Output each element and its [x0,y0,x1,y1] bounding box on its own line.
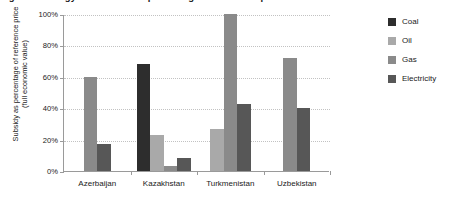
y-axis-title-line-2: (full economic value) [20,0,29,149]
bar [283,58,297,171]
x-axis-separator-tick [131,171,132,175]
bar [237,104,251,172]
x-axis-category-label: Azerbaijan [78,179,116,188]
bar [150,135,164,171]
bar [224,14,238,171]
y-axis-tick-label: 40% [43,105,58,113]
x-axis-separator-tick [330,171,331,175]
y-axis-tick-mark [60,109,64,110]
y-axis-tick-label: 80% [43,43,58,51]
y-axis-tick-mark [60,172,64,173]
bar [84,77,98,171]
figure-title: Figure 3. Energy subsidies as a percenta… [0,0,465,5]
figure-container: Figure 3. Energy subsidies as a percenta… [0,0,465,199]
y-axis-tick-label: 0% [47,168,58,176]
bar [177,158,191,171]
legend-item-coal[interactable]: Coal [388,12,465,31]
y-axis-title-line-1: Subsidy as percentage of reference price [11,0,20,149]
legend-item-label: Gas [402,56,417,64]
y-axis-tick-label: 60% [43,74,58,82]
y-axis-tick-mark [60,15,64,16]
bar [97,144,111,171]
legend-item-label: Oil [402,37,412,45]
y-axis-title: Subsidy as percentage of reference price… [11,0,35,149]
y-axis-tick-mark [60,78,64,79]
legend-swatch-icon [388,75,396,83]
legend-item-label: Coal [402,18,418,26]
legend-item-oil[interactable]: Oil [388,31,465,50]
x-axis-separator-tick [264,171,265,175]
bar [210,129,224,171]
y-axis-tick-mark [60,46,64,47]
x-axis-category-label: Uzbekistan [277,179,317,188]
plot-area: 0%20%40%60%80%100%AzerbaijanKazakhstanTu… [63,15,329,172]
x-axis-category-label: Turkmenistan [206,179,254,188]
gridline [64,15,330,16]
legend-swatch-icon [388,37,396,45]
legend-swatch-icon [388,18,396,26]
y-axis-tick-label: 100% [39,11,58,19]
bar [297,108,311,171]
gridline [64,46,330,47]
bar [164,166,178,171]
bar [137,64,151,171]
x-axis-separator-tick [197,171,198,175]
y-axis-tick-mark [60,141,64,142]
legend-item-gas[interactable]: Gas [388,50,465,69]
legend-item-label: Electricity [402,75,436,83]
x-axis-category-label: Kazakhstan [143,179,185,188]
legend-swatch-icon [388,56,396,64]
chart-legend: CoalOilGasElectricity [388,12,465,88]
legend-item-electricity[interactable]: Electricity [388,69,465,88]
y-axis-tick-label: 20% [43,137,58,145]
